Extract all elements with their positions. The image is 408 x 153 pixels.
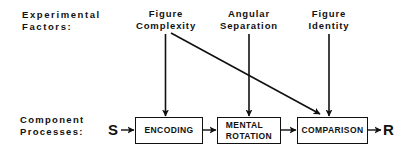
process-line1: MENTAL <box>226 120 272 131</box>
process-comparison: COMPARISON <box>297 117 368 144</box>
factor-line1: Figure <box>136 8 196 20</box>
factor-line2: Complexity <box>136 20 196 32</box>
factor-figure-identity: Figure Identity <box>309 8 350 32</box>
factor-line1: Angular <box>220 8 278 20</box>
stimulus-label: S <box>108 122 118 138</box>
factor-angular-separation: Angular Separation <box>220 8 278 32</box>
process-line2: ROTATION <box>226 131 272 142</box>
process-line1: ENCODING <box>144 125 193 136</box>
factors-label-line1: Experimental <box>22 9 101 21</box>
factor-line1: Figure <box>309 8 350 20</box>
component-processes-label: Component Processes: <box>20 114 84 138</box>
processes-label-line2: Processes: <box>20 126 84 138</box>
process-mental-rotation: MENTAL ROTATION <box>217 117 281 144</box>
process-line1: COMPARISON <box>302 125 364 136</box>
experimental-factors-label: Experimental Factors: <box>22 9 101 33</box>
factors-label-line2: Factors: <box>22 21 101 33</box>
factor-line2: Separation <box>220 20 278 32</box>
process-encoding: ENCODING <box>135 117 203 144</box>
factor-line2: Identity <box>309 20 350 32</box>
response-label: R <box>383 122 394 138</box>
factor-figure-complexity: Figure Complexity <box>136 8 196 32</box>
arrow-complexity-comparison <box>171 33 320 114</box>
processes-label-line1: Component <box>20 114 84 126</box>
